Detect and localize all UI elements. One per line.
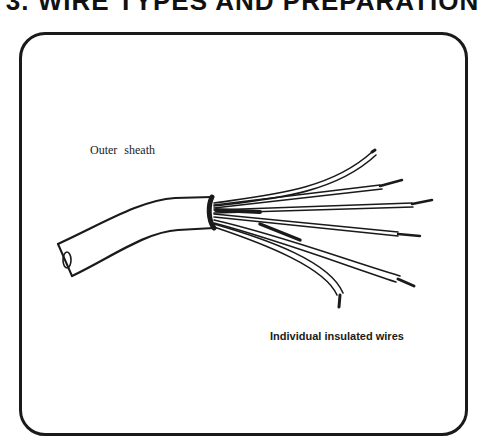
insulated-wires	[214, 150, 432, 307]
outer-sheath-label: Outer sheath	[90, 143, 155, 158]
insulated-wires-label: Individual insulated wires	[270, 330, 404, 342]
outer-sheath-shape	[58, 197, 214, 276]
cable-illustration	[0, 0, 485, 447]
